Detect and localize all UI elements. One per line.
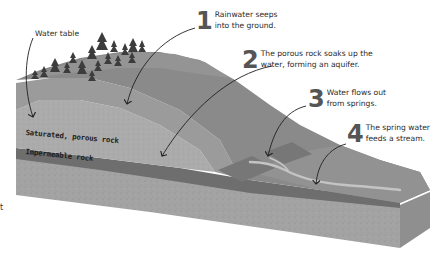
callout-3-number: 3 (308, 88, 324, 110)
edge-text-fragment: t (0, 203, 3, 212)
callout-1-text: Rainwater seeps into the ground. (215, 10, 278, 31)
callout-1: 1 Rainwater seeps into the ground. (196, 10, 278, 32)
callout-2-text: The porous rock soaks up the water, form… (261, 49, 373, 70)
callout-3-text: Water flows out from springs. (327, 88, 386, 109)
callout-1-number: 1 (196, 10, 212, 32)
callout-2: 2 The porous rock soaks up the water, fo… (242, 49, 373, 71)
callout-2-number: 2 (242, 49, 258, 71)
callout-4-number: 4 (347, 123, 363, 145)
water-table-label: Water table (35, 29, 79, 38)
callout-4: 4 The spring water feeds a stream. (347, 123, 430, 145)
callout-3: 3 Water flows out from springs. (308, 88, 386, 110)
callout-4-text: The spring water feeds a stream. (366, 123, 430, 144)
